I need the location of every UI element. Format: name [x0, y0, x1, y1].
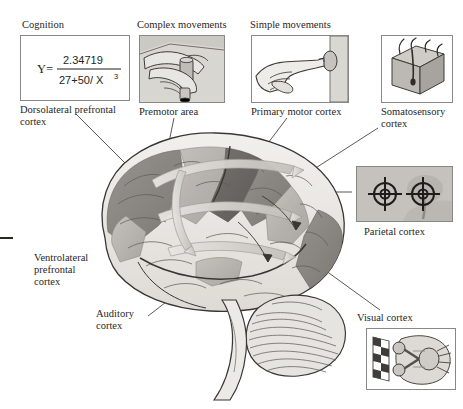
panel-somatosensory: [381, 35, 453, 103]
panel-heading-simple-movements: Simple movements: [250, 19, 331, 31]
crosshair-targets-graphic: [357, 167, 452, 221]
equation-graphic: Y= 2.34719 27+50/ X 3: [21, 36, 129, 100]
hands-grasping-object-graphic: [140, 36, 224, 102]
panel-visual: [366, 328, 456, 390]
brain-label-auditory-l2: cortex: [96, 320, 122, 332]
equation-lhs: Y=: [37, 62, 53, 76]
panel-caption-dorsolateral-l1: Dorsolateral prefrontal: [20, 104, 116, 116]
panel-heading-cognition: Cognition: [22, 19, 64, 31]
panel-caption-premotor-area: Premotor area: [139, 106, 198, 118]
visual-pathway-graphic: [367, 329, 455, 389]
brain-label-ventrolateral-l2: prefrontal: [34, 264, 75, 276]
panel-heading-visual-cortex: Visual cortex: [357, 312, 413, 324]
brain-label-auditory-l1: Auditory: [96, 308, 134, 320]
panel-heading-complex-movements: Complex movements: [137, 19, 227, 31]
equation-numerator: 2.34719: [63, 54, 103, 66]
panel-caption-dorsolateral-l2: cortex: [20, 116, 46, 128]
skin-block-graphic: [382, 36, 452, 102]
panel-cognition: Y= 2.34719 27+50/ X 3: [20, 35, 130, 101]
panel-simple-movements: [251, 35, 349, 103]
brainstem: [214, 300, 247, 400]
panel-complex-movements: [139, 35, 225, 103]
figure-canvas: Cognition Y= 2.34719 27+50/ X 3 Dorsolat…: [0, 0, 463, 409]
panel-caption-somatosensory-l2: cortex: [381, 118, 407, 130]
panel-caption-somatosensory-l1: Somatosensory: [381, 106, 445, 118]
finger-pressing-button-graphic: [252, 36, 348, 102]
edge-tick-mark: [0, 237, 13, 239]
panel-parietal: [356, 166, 453, 222]
equation-exponent: 3: [114, 72, 118, 81]
brain-cortex: [102, 133, 345, 400]
brain-label-ventrolateral-l3: cortex: [34, 276, 60, 288]
panel-caption-parietal-cortex: Parietal cortex: [364, 226, 425, 238]
panel-caption-primary-motor-cortex: Primary motor cortex: [251, 106, 341, 118]
cerebellum: [246, 295, 345, 376]
brain-label-ventrolateral-l1: Ventrolateral: [34, 252, 88, 264]
equation-denominator: 27+50/ X: [59, 74, 104, 86]
